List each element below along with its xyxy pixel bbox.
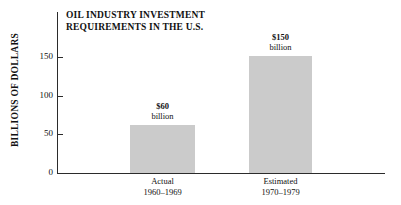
y-axis-title-text: BILLIONS OF DOLLARS	[10, 33, 20, 147]
y-tick-mark-100	[57, 96, 63, 97]
y-tick-mark-50	[57, 134, 63, 135]
y-axis-title: BILLIONS OF DOLLARS	[0, 0, 30, 180]
category-label-estimated: Estimated 1970–1979	[240, 176, 321, 197]
y-tick-mark-150	[57, 57, 63, 58]
category-label-estimated-years: 1970–1979	[240, 187, 321, 198]
category-label-actual-name: Actual	[122, 176, 203, 187]
value-label-actual: $60 billion	[122, 101, 203, 121]
x-axis-line	[57, 173, 385, 174]
value-label-estimated: $150 billion	[240, 32, 321, 52]
category-label-actual-years: 1960–1969	[122, 187, 203, 198]
bar-chart-figure: BILLIONS OF DOLLARS 150 100 50 0 OIL IND…	[0, 0, 401, 205]
y-tick-label-150: 150	[28, 52, 53, 61]
value-label-actual-amount: $60	[122, 101, 203, 111]
y-tick-label-50: 50	[28, 129, 53, 138]
value-label-actual-unit: billion	[122, 111, 203, 121]
bar-estimated	[249, 56, 312, 173]
value-label-estimated-unit: billion	[240, 42, 321, 52]
bar-actual	[130, 125, 195, 173]
y-tick-label-100: 100	[28, 91, 53, 100]
chart-title: OIL INDUSTRY INVESTMENT REQUIREMENTS IN …	[66, 10, 205, 33]
category-label-actual: Actual 1960–1969	[122, 176, 203, 197]
category-label-estimated-name: Estimated	[240, 176, 321, 187]
y-tick-label-0: 0	[28, 168, 53, 177]
value-label-estimated-amount: $150	[240, 32, 321, 42]
y-axis-line	[57, 12, 58, 174]
